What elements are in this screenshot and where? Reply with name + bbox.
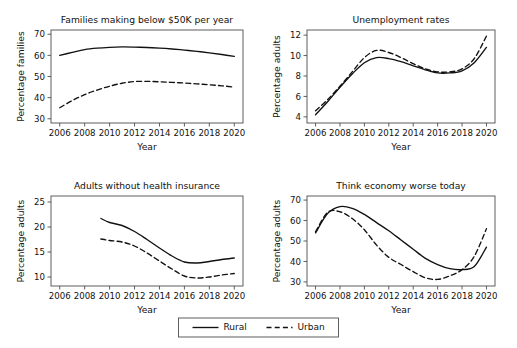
plot-frame-4 bbox=[307, 196, 495, 286]
x-axis-label-3: Year bbox=[136, 304, 157, 315]
y-tick-label: 60 bbox=[34, 51, 45, 61]
x-axis-label-2: Year bbox=[390, 141, 411, 152]
x-tick-label: 2010 bbox=[99, 128, 121, 138]
legend-label-urban: Urban bbox=[298, 322, 325, 332]
x-tick-label: 2018 bbox=[198, 291, 220, 301]
chart-panel-4: Think economy worse today304050607020062… bbox=[271, 180, 497, 315]
x-tick-label: 2016 bbox=[427, 291, 449, 301]
x-tick-label: 2018 bbox=[198, 128, 220, 138]
y-tick-label: 6 bbox=[296, 92, 301, 102]
x-tick-label: 2014 bbox=[402, 291, 424, 301]
x-tick-label: 2018 bbox=[451, 128, 473, 138]
panel-title-3: Adults without health insurance bbox=[74, 180, 220, 191]
x-tick-label: 2006 bbox=[305, 291, 327, 301]
legend-label-rural: Rural bbox=[224, 322, 247, 332]
x-tick-label: 2012 bbox=[124, 128, 146, 138]
x-tick-label: 2008 bbox=[329, 291, 351, 301]
y-tick-label: 40 bbox=[34, 93, 45, 103]
y-tick-label: 30 bbox=[34, 114, 45, 124]
x-tick-label: 2008 bbox=[74, 291, 96, 301]
x-tick-label: 2008 bbox=[74, 128, 96, 138]
x-tick-label: 2008 bbox=[329, 128, 351, 138]
multi-panel-line-chart-figure: Families making below $50K per year30405… bbox=[0, 0, 517, 348]
x-tick-label: 2020 bbox=[476, 291, 498, 301]
plot-frame-1 bbox=[51, 30, 243, 123]
y-tick-label: 15 bbox=[34, 247, 45, 257]
x-tick-label: 2018 bbox=[451, 291, 473, 301]
x-tick-label: 2006 bbox=[49, 291, 71, 301]
y-tick-label: 50 bbox=[34, 72, 45, 82]
y-axis-label-3: Percentage adults bbox=[15, 199, 26, 282]
chart-panel-3: Adults without health insurance101520252… bbox=[15, 180, 245, 315]
chart-panel-2: Unemployment rates4681012200620082010201… bbox=[271, 14, 497, 152]
y-tick-label: 4 bbox=[296, 112, 301, 122]
panel-title-4: Think economy worse today bbox=[335, 180, 466, 191]
chart-panel-1: Families making below $50K per year30405… bbox=[15, 14, 245, 152]
x-tick-label: 2014 bbox=[149, 128, 171, 138]
series-line-urban bbox=[60, 81, 235, 107]
series-line-rural bbox=[101, 219, 234, 264]
x-tick-label: 2020 bbox=[223, 291, 245, 301]
x-tick-label: 2020 bbox=[476, 128, 498, 138]
y-tick-label: 10 bbox=[34, 272, 45, 282]
y-tick-label: 70 bbox=[34, 29, 45, 39]
y-axis-label-2: Percentage adults bbox=[271, 35, 282, 118]
x-axis-label-1: Year bbox=[136, 141, 157, 152]
y-tick-label: 10 bbox=[290, 51, 301, 61]
x-tick-label: 2010 bbox=[353, 128, 375, 138]
y-tick-label: 25 bbox=[34, 197, 45, 207]
plot-frame-2 bbox=[307, 30, 495, 123]
y-tick-label: 20 bbox=[34, 222, 45, 232]
x-tick-label: 2016 bbox=[173, 128, 195, 138]
y-tick-label: 12 bbox=[290, 30, 301, 40]
plot-frame-3 bbox=[51, 196, 243, 286]
series-line-rural bbox=[60, 47, 235, 57]
y-tick-label: 40 bbox=[290, 257, 301, 267]
x-tick-label: 2012 bbox=[378, 128, 400, 138]
x-tick-label: 2016 bbox=[427, 128, 449, 138]
x-tick-label: 2010 bbox=[99, 291, 121, 301]
chart-legend: RuralUrban bbox=[179, 318, 339, 337]
x-axis-label-4: Year bbox=[390, 304, 411, 315]
y-tick-label: 50 bbox=[290, 236, 301, 246]
x-tick-label: 2006 bbox=[49, 128, 71, 138]
x-tick-label: 2010 bbox=[353, 291, 375, 301]
y-tick-label: 8 bbox=[296, 71, 301, 81]
x-tick-label: 2014 bbox=[402, 128, 424, 138]
x-tick-label: 2020 bbox=[223, 128, 245, 138]
x-tick-label: 2012 bbox=[378, 291, 400, 301]
y-axis-label-4: Percentage adults bbox=[271, 199, 282, 282]
y-tick-label: 60 bbox=[290, 216, 301, 226]
y-axis-label-1: Percentage families bbox=[15, 31, 26, 122]
series-line-rural bbox=[316, 206, 487, 269]
x-tick-label: 2006 bbox=[305, 128, 327, 138]
x-tick-label: 2012 bbox=[124, 291, 146, 301]
panel-title-1: Families making below $50K per year bbox=[61, 14, 234, 25]
series-line-urban bbox=[316, 36, 487, 111]
x-tick-label: 2014 bbox=[149, 291, 171, 301]
series-line-urban bbox=[101, 239, 234, 278]
y-tick-label: 30 bbox=[290, 277, 301, 287]
x-tick-label: 2016 bbox=[173, 291, 195, 301]
y-tick-label: 70 bbox=[290, 195, 301, 205]
panel-title-2: Unemployment rates bbox=[353, 14, 450, 25]
